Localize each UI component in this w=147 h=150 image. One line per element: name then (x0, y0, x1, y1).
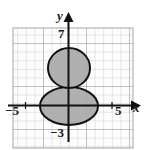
graph-figure: y x 7 −3 −5 5 (0, 0, 147, 150)
y-tick-label-negative-3: −3 (50, 126, 64, 139)
x-axis-label: x (133, 101, 140, 114)
x-tick-label-5: 5 (115, 104, 122, 117)
y-axis-label: y (57, 9, 63, 22)
y-tick-label-7: 7 (58, 27, 65, 40)
x-tick-label-negative-5: −5 (5, 104, 19, 117)
coordinate-plot (0, 0, 147, 150)
